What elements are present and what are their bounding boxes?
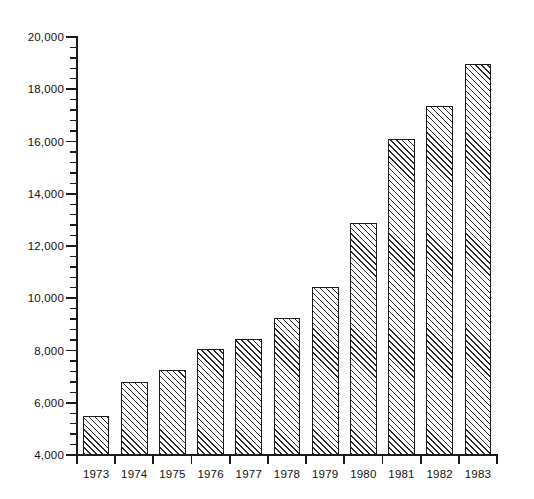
y-axis-tick-label: 4,000 <box>2 449 64 461</box>
x-axis-line <box>76 454 498 456</box>
y-axis-minor-tick <box>70 339 77 340</box>
y-axis-tick-label: 20,000 <box>2 31 64 43</box>
y-axis-minor-tick <box>70 68 77 69</box>
y-axis-labels: 4,0006,0008,00010,00012,00014,00016,0001… <box>0 0 64 499</box>
y-axis-tick-label: 12,000 <box>2 240 64 252</box>
y-axis-tick-label: 14,000 <box>2 188 64 200</box>
bar-1983 <box>465 64 492 455</box>
x-axis-tick <box>229 455 231 464</box>
bar-1981 <box>388 139 415 455</box>
y-axis-minor-tick <box>70 120 77 121</box>
y-axis-major-tick <box>66 193 77 195</box>
x-axis-tick <box>458 455 460 464</box>
y-axis-minor-tick <box>70 130 77 131</box>
y-axis-tick-label: 16,000 <box>2 136 64 148</box>
y-axis-minor-tick <box>70 329 77 330</box>
y-axis-tick-label: 8,000 <box>2 345 64 357</box>
x-axis-tick-label: 1973 <box>83 468 109 480</box>
y-axis-minor-tick <box>70 57 77 58</box>
bars-layer <box>77 37 497 455</box>
x-axis-tick <box>496 455 498 464</box>
x-axis-tick-label: 1978 <box>274 468 300 480</box>
x-axis-tick-label: 1975 <box>159 468 185 480</box>
y-axis-minor-tick <box>70 172 77 173</box>
y-axis-major-tick <box>66 297 77 299</box>
bar-1978 <box>274 318 301 455</box>
y-axis-minor-tick <box>70 47 77 48</box>
y-axis-minor-tick <box>70 318 77 319</box>
y-axis-minor-tick <box>70 204 77 205</box>
x-axis-tick-label: 1974 <box>121 468 147 480</box>
y-axis-minor-tick <box>70 224 77 225</box>
y-axis-minor-tick <box>70 235 77 236</box>
y-axis-major-tick <box>66 88 77 90</box>
y-axis-major-tick <box>66 402 77 404</box>
x-axis-tick <box>191 455 193 464</box>
bar-1974 <box>121 382 148 455</box>
y-axis-major-tick <box>66 141 77 143</box>
y-axis-minor-tick <box>70 308 77 309</box>
x-axis-tick <box>267 455 269 464</box>
x-axis-tick-label: 1979 <box>312 468 338 480</box>
plot-area <box>77 37 497 455</box>
y-axis-major-tick <box>66 350 77 352</box>
x-axis-tick <box>76 455 78 464</box>
y-axis-minor-tick <box>70 78 77 79</box>
x-axis-tick-label: 1982 <box>427 468 453 480</box>
bar-1977 <box>235 339 262 455</box>
x-axis-tick-label: 1983 <box>465 468 491 480</box>
x-axis-tick-label: 1977 <box>236 468 262 480</box>
x-axis-tick <box>114 455 116 464</box>
y-axis-minor-tick <box>70 99 77 100</box>
y-axis-minor-tick <box>70 381 77 382</box>
bar-1973 <box>83 416 110 455</box>
x-axis-tick <box>382 455 384 464</box>
bar-1975 <box>159 370 186 455</box>
y-axis-minor-tick <box>70 360 77 361</box>
y-axis-minor-tick <box>70 392 77 393</box>
y-axis-minor-tick <box>70 433 77 434</box>
y-axis-minor-tick <box>70 183 77 184</box>
y-axis-minor-tick <box>70 444 77 445</box>
bar-chart-figure: 4,0006,0008,00010,00012,00014,00016,0001… <box>0 0 534 499</box>
x-axis-tick-label: 1981 <box>388 468 414 480</box>
y-axis-minor-tick <box>70 266 77 267</box>
y-axis-minor-tick <box>70 287 77 288</box>
bar-1982 <box>426 106 453 455</box>
y-axis-minor-tick <box>70 162 77 163</box>
y-axis-minor-tick <box>70 151 77 152</box>
y-axis-tick-label: 10,000 <box>2 292 64 304</box>
bar-1976 <box>197 349 224 455</box>
x-axis-tick <box>420 455 422 464</box>
x-axis-tick <box>152 455 154 464</box>
y-axis-minor-tick <box>70 214 77 215</box>
y-axis-major-tick <box>66 245 77 247</box>
y-axis-tick-label: 6,000 <box>2 397 64 409</box>
bar-1979 <box>312 287 339 456</box>
x-axis-tick-label: 1976 <box>197 468 223 480</box>
y-axis-minor-tick <box>70 423 77 424</box>
x-axis-tick-label: 1980 <box>350 468 376 480</box>
y-axis-minor-tick <box>70 109 77 110</box>
bar-1980 <box>350 223 377 456</box>
y-axis-major-tick <box>66 36 77 38</box>
y-axis-minor-tick <box>70 277 77 278</box>
x-axis-tick <box>305 455 307 464</box>
y-axis-minor-tick <box>70 371 77 372</box>
y-axis-minor-tick <box>70 256 77 257</box>
y-axis-minor-tick <box>70 413 77 414</box>
x-axis-tick <box>343 455 345 464</box>
y-axis-tick-label: 18,000 <box>2 83 64 95</box>
